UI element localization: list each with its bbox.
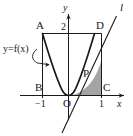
tick-label-x-1: 1: [99, 99, 104, 109]
point-label-a: A: [36, 20, 44, 31]
function-label-leader: [33, 49, 48, 65]
axis-label-x: x: [117, 99, 121, 109]
function-label: y=f(x): [3, 44, 29, 54]
line-label-l: l: [120, 2, 123, 13]
point-label-b: B: [35, 82, 42, 93]
point-label-c: C: [103, 82, 110, 93]
region-label-p: P: [83, 68, 89, 79]
math-figure: y=f(x) A D 2 y l B C P −1 O 1 x: [0, 0, 133, 136]
function-label-leader-arrowhead: [45, 63, 50, 67]
function-label-text: y=f(x): [3, 43, 29, 54]
point-label-d: D: [96, 20, 104, 31]
point-label-o: O: [63, 98, 71, 109]
tick-label-x-neg1: −1: [35, 99, 46, 109]
tick-label-y-2: 2: [61, 22, 66, 32]
figure-graphics: [0, 0, 133, 136]
axis-label-y: y: [63, 3, 67, 13]
